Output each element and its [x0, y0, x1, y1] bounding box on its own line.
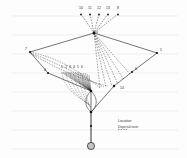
label-top-12: 12	[97, 7, 101, 11]
arrow-10	[80, 14, 82, 16]
label-cluster-2: 2	[65, 66, 67, 70]
network-diagram	[0, 0, 187, 158]
label-cluster-6: 6	[81, 66, 83, 70]
label-top-13: 13	[106, 7, 110, 11]
node-right[interactable]	[156, 52, 158, 54]
edge-top-11	[90, 14, 94, 33]
label-top-8: 8	[117, 7, 119, 11]
label-node-14: 14	[120, 87, 124, 91]
node-markers	[29, 32, 158, 128]
label-cluster-4: 4	[73, 66, 75, 70]
arrow-8	[117, 14, 119, 16]
label-node-4: 4	[44, 69, 46, 73]
hub-fan-dashed	[94, 33, 130, 88]
label-top-10: 10	[79, 7, 83, 11]
ray-6	[94, 33, 130, 74]
legend-title: Location	[118, 119, 132, 123]
label-cluster-3: 3	[69, 66, 71, 70]
label-cluster-5: 5	[77, 66, 79, 70]
node-root[interactable]	[87, 142, 94, 149]
curved-dashed-arcs	[30, 52, 108, 88]
node-base[interactable]	[90, 111, 93, 114]
arrow-11	[89, 14, 91, 16]
fan-line	[61, 72, 91, 91]
legend-subtitle: Dispersal route	[118, 125, 138, 129]
top-dashed-edges	[81, 14, 118, 33]
edge-hub-left	[30, 33, 94, 52]
edge-lowerright-junction	[114, 72, 132, 86]
arrow-13	[107, 14, 109, 16]
label-top-11: 11	[88, 7, 92, 11]
figure-canvas: 10 11 12 13 8 7 5 4 6 14 9 1 2 3 4 5 6 L…	[0, 0, 187, 158]
label-node-5: 5	[160, 49, 162, 53]
label-node-6: 6	[135, 68, 137, 72]
ray-2	[94, 33, 106, 87]
radiating-fan	[61, 72, 91, 91]
lens-left	[86, 91, 91, 112]
node-fan-center[interactable]	[90, 90, 93, 93]
label-node-7: 7	[25, 48, 27, 52]
node-lower-left[interactable]	[47, 72, 49, 74]
diamond-frame	[30, 33, 157, 112]
node-left[interactable]	[29, 51, 31, 53]
edge-hub-right	[94, 33, 157, 53]
label-node-9: 9	[96, 32, 98, 36]
node-lower-right[interactable]	[131, 71, 133, 73]
ray-4	[94, 33, 118, 84]
node-stem-mid[interactable]	[90, 125, 92, 127]
node-junction[interactable]	[113, 85, 115, 87]
top-edge-arrowheads	[80, 14, 119, 16]
arrow-12	[98, 14, 100, 16]
label-cluster-1: 1	[61, 66, 63, 70]
arc-3	[31, 54, 108, 86]
fan-line	[75, 72, 91, 91]
